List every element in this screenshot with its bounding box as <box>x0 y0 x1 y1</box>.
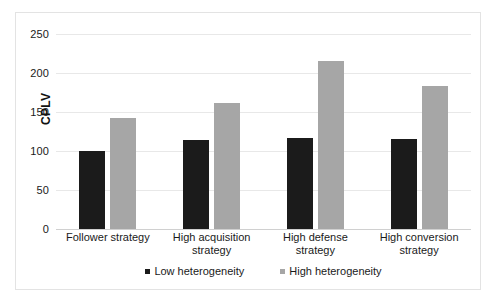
legend-item[interactable]: High heterogeneity <box>280 265 381 277</box>
bar-low-heterogeneity[interactable] <box>183 140 209 229</box>
y-axis-tick-label: 50 <box>37 184 49 196</box>
chart-legend: Low heterogeneityHigh heterogeneity <box>56 265 471 277</box>
bar-group-bars <box>264 34 368 229</box>
bar-group-bars <box>160 34 264 229</box>
square-marker-gray-icon <box>280 269 285 274</box>
x-axis-category-label: High conversion strategy <box>367 231 471 257</box>
bar-high-heterogeneity[interactable] <box>318 61 344 229</box>
bar-group <box>264 34 368 229</box>
legend-label: High heterogeneity <box>289 265 381 277</box>
x-axis-category-label: High defense strategy <box>264 231 368 257</box>
bar-high-heterogeneity[interactable] <box>214 103 240 229</box>
gridline <box>56 229 471 230</box>
y-axis-tick-label: 250 <box>30 28 49 40</box>
plot-area: 050100150200250 <box>56 34 471 229</box>
y-axis-tick-label: 100 <box>30 145 49 157</box>
x-axis-category-label: Follower strategy <box>56 231 160 257</box>
bar-group <box>160 34 264 229</box>
bar-group <box>367 34 471 229</box>
bar-low-heterogeneity[interactable] <box>287 138 313 229</box>
square-marker-dark-icon <box>145 269 150 274</box>
bar-low-heterogeneity[interactable] <box>391 139 417 229</box>
bar-high-heterogeneity[interactable] <box>422 86 448 229</box>
bar-group-bars <box>56 34 160 229</box>
bar-group <box>56 34 160 229</box>
y-axis-tick-label: 150 <box>30 106 49 118</box>
chart-frame: CPLV 050100150200250 Follower strategyHi… <box>15 12 481 290</box>
bar-groups <box>56 34 471 229</box>
x-axis-labels: Follower strategyHigh acquisition strate… <box>56 231 471 257</box>
y-axis-tick-label: 200 <box>30 67 49 79</box>
legend-label: Low heterogeneity <box>154 265 244 277</box>
y-axis-tick-label: 0 <box>43 223 49 235</box>
legend-item[interactable]: Low heterogeneity <box>145 265 244 277</box>
bar-low-heterogeneity[interactable] <box>79 151 105 229</box>
bar-high-heterogeneity[interactable] <box>110 118 136 229</box>
bar-group-bars <box>367 34 471 229</box>
x-axis-category-label: High acquisition strategy <box>160 231 264 257</box>
